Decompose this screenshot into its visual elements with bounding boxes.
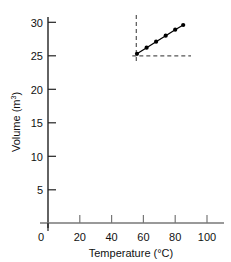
chart-container: 30 25 20 15 10 5 0 20 40 60 80 100 Tempe… [0, 0, 231, 262]
data-point-6[interactable] [181, 23, 185, 27]
y-tick-label-10: 10 [31, 151, 43, 163]
data-point-1[interactable] [135, 52, 139, 56]
data-point-5[interactable] [173, 28, 177, 32]
x-tick-label-20: 20 [74, 231, 86, 243]
data-point-2[interactable] [145, 46, 149, 50]
x-axis-title: Temperature (°C) [89, 247, 173, 259]
y-tick-label-5: 5 [37, 184, 43, 196]
volume-temperature-line-chart: 30 25 20 15 10 5 0 20 40 60 80 100 Tempe… [0, 0, 231, 262]
y-tick-label-30: 30 [31, 17, 43, 29]
x-tick-label-80: 80 [169, 231, 181, 243]
y-axis-title: Volume (m3) [10, 92, 22, 152]
x-tick-label-100: 100 [198, 231, 216, 243]
data-point-3[interactable] [154, 40, 158, 44]
y-tick-label-25: 25 [31, 50, 43, 62]
x-tick-label-60: 60 [137, 231, 149, 243]
data-point-4[interactable] [164, 34, 168, 38]
y-tick-label-20: 20 [31, 84, 43, 96]
x-tick-label-40: 40 [105, 231, 117, 243]
y-tick-label-15: 15 [31, 117, 43, 129]
svg-text:Volume (m3): Volume (m3) [10, 92, 22, 152]
y-axis-title-close: ) [10, 92, 22, 96]
x-tick-label-0: 0 [38, 231, 44, 243]
y-axis-title-base: Volume (m [10, 100, 22, 153]
